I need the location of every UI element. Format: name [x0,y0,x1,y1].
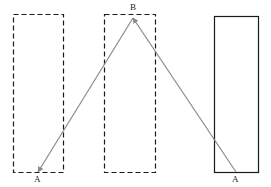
ascending-path-a-to-b [38,18,133,172]
descending-path-b-to-a [133,18,236,172]
vertex-label-b: B [130,3,136,12]
vertex-label-a-left: A [34,175,41,184]
left-dashed-rectangle [14,15,64,173]
middle-dashed-rectangle [105,15,156,173]
diagram-svg [0,0,271,187]
vertex-label-a-right: A [232,175,239,184]
diagram-canvas: B A A [0,0,271,187]
